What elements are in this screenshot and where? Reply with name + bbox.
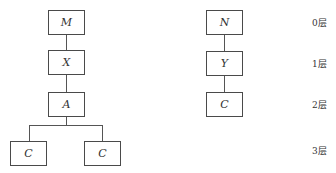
- node-c-left: C: [10, 141, 47, 166]
- layer-label-1: 1层: [312, 57, 327, 70]
- edge-bar-c2: [102, 125, 103, 141]
- node-a: A: [48, 92, 85, 117]
- edge-x-a: [66, 75, 67, 92]
- edge-m-x: [66, 35, 67, 50]
- node-x: X: [48, 50, 85, 75]
- tree-diagram: M X A C C N Y C 0层 1层 2层 3层: [0, 0, 336, 173]
- layer-label-2: 2层: [312, 98, 327, 111]
- layer-label-0: 0层: [312, 16, 327, 29]
- node-y: Y: [206, 51, 243, 76]
- node-n: N: [206, 10, 243, 35]
- layer-label-3: 3层: [312, 144, 327, 157]
- edge-y-c: [224, 76, 225, 92]
- edge-a-bar: [66, 117, 67, 125]
- edge-branch-bar: [29, 125, 103, 126]
- node-m: M: [48, 10, 85, 35]
- node-c-right: C: [84, 141, 121, 166]
- edge-bar-c1: [29, 125, 30, 141]
- edge-n-y: [224, 35, 225, 51]
- node-c: C: [206, 92, 243, 117]
